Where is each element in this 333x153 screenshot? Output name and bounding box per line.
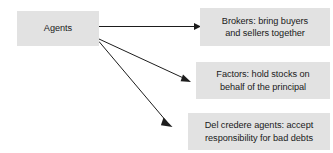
node-del-credere-line1: Del credere agents: accept xyxy=(205,120,314,130)
node-del-credere-line2: responsibility for bad debts xyxy=(205,133,313,143)
node-factors[interactable]: Factors: hold stocks on behalf of the pr… xyxy=(196,62,330,99)
arrowhead-factors xyxy=(181,75,191,83)
node-factors-line1: Factors: hold stocks on xyxy=(216,69,309,79)
node-agents[interactable]: Agents xyxy=(17,11,99,46)
edge-agents-to-brokers xyxy=(99,23,201,30)
node-agents-label: Agents xyxy=(44,22,72,34)
node-del-credere-label: Del credere agents: accept responsibilit… xyxy=(205,119,314,143)
node-brokers-line2: and sellers together xyxy=(225,28,305,38)
node-brokers-line1: Brokers: bring buyers xyxy=(222,16,308,26)
node-brokers-label: Brokers: bring buyers and sellers togeth… xyxy=(222,15,308,39)
node-brokers[interactable]: Brokers: bring buyers and sellers togeth… xyxy=(200,8,330,46)
node-factors-line2: behalf of the principal xyxy=(220,82,306,92)
arrowhead-del-credere xyxy=(161,118,173,128)
node-factors-label: Factors: hold stocks on behalf of the pr… xyxy=(216,68,309,92)
agents-diagram: Agents Brokers: bring buyers and sellers… xyxy=(0,0,333,153)
edge-agents-to-del-credere xyxy=(99,42,173,128)
edge-line-del-credere xyxy=(99,42,167,123)
node-del-credere-agents[interactable]: Del credere agents: accept responsibilit… xyxy=(188,113,330,150)
edge-line-factors xyxy=(99,39,185,79)
edge-agents-to-factors xyxy=(99,39,191,82)
